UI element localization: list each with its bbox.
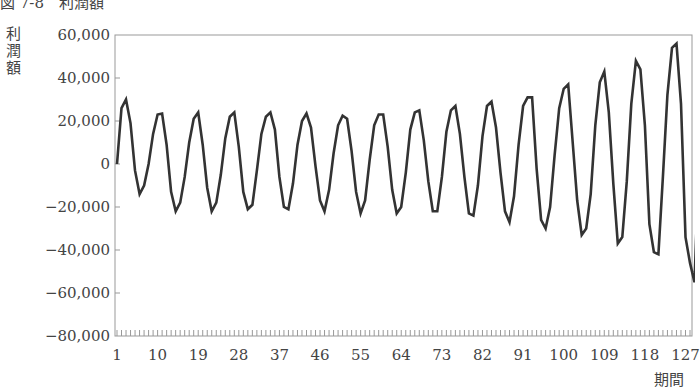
profit-line [117,44,695,283]
